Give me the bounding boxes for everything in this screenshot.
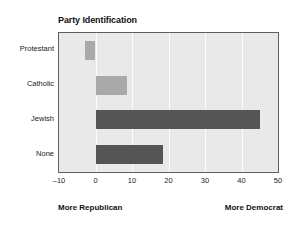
- bar-none: [96, 145, 164, 164]
- x-tick-label-40: 40: [237, 176, 245, 185]
- x-axis-labels: –1001020304050: [58, 176, 279, 190]
- x-tick-label--10: –10: [53, 176, 66, 185]
- bar-jewish: [96, 110, 260, 129]
- bar-catholic: [96, 76, 127, 95]
- chart-figure: Party Identification ProtestantCatholicJ…: [0, 0, 299, 230]
- plot-area: [58, 32, 279, 173]
- more-republican-annotation: More Republican: [58, 203, 122, 212]
- y-tick-label-catholic: Catholic: [0, 79, 54, 88]
- x-tick-label-10: 10: [128, 176, 136, 185]
- x-tick-label-30: 30: [201, 176, 209, 185]
- x-tick-label-50: 50: [274, 176, 282, 185]
- more-democrat-annotation: More Democrat: [225, 203, 283, 212]
- gridline-x-30: [205, 33, 206, 172]
- y-tick-label-jewish: Jewish: [0, 114, 54, 123]
- gridline-x-40: [242, 33, 243, 172]
- x-tick-label-0: 0: [93, 176, 97, 185]
- y-tick-label-protestant: Protestant: [0, 44, 54, 53]
- x-tick-label-20: 20: [164, 176, 172, 185]
- chart-title: Party Identification: [58, 15, 137, 25]
- y-tick-label-none: None: [0, 149, 54, 158]
- gridline-x-20: [169, 33, 170, 172]
- bar-protestant: [85, 41, 96, 60]
- y-axis-labels: ProtestantCatholicJewishNone: [0, 32, 54, 173]
